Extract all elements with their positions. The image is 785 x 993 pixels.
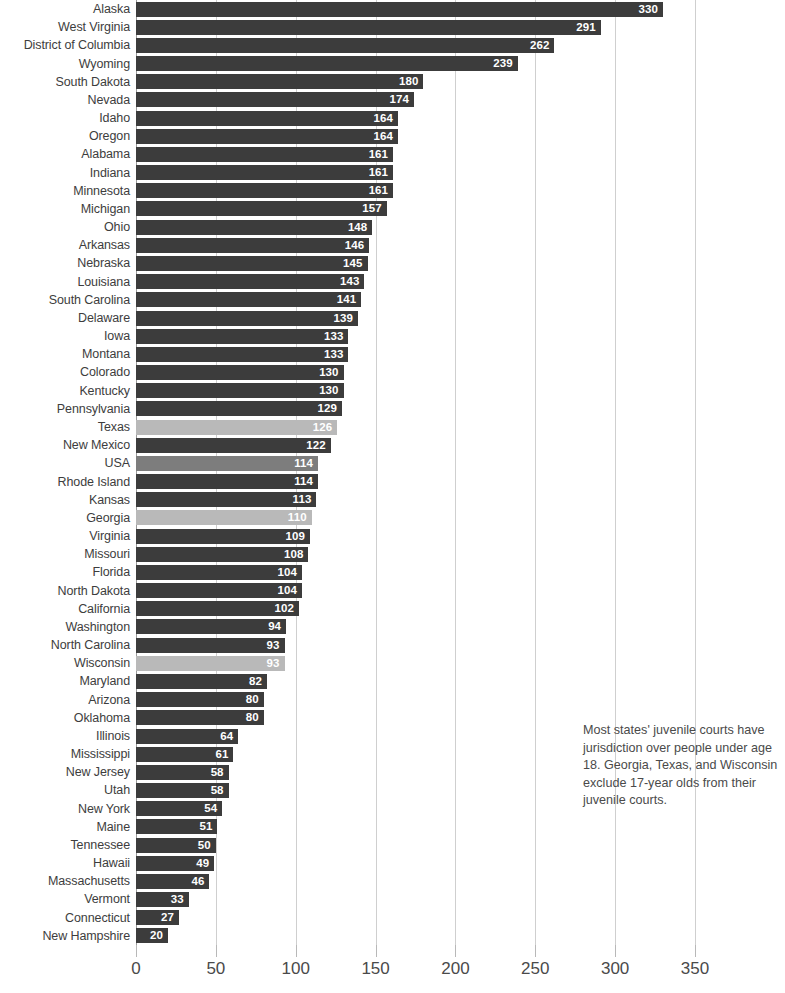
category-label: Tennessee <box>0 836 130 854</box>
bar[interactable]: 148 <box>136 220 372 235</box>
bar-container: 262 <box>136 38 554 53</box>
bar[interactable]: 164 <box>136 129 398 144</box>
bar[interactable]: 110 <box>136 510 312 525</box>
bar[interactable]: 49 <box>136 856 214 871</box>
category-label: Idaho <box>0 109 130 127</box>
bar-value-label: 174 <box>389 92 414 107</box>
bar[interactable]: 139 <box>136 311 358 326</box>
bar[interactable]: 94 <box>136 619 286 634</box>
category-label: Connecticut <box>0 909 130 927</box>
bar[interactable]: 133 <box>136 347 348 362</box>
bar-value-label: 61 <box>215 747 233 762</box>
category-label: Maryland <box>0 672 130 690</box>
bar[interactable]: 239 <box>136 56 518 71</box>
bar[interactable]: 161 <box>136 147 393 162</box>
bar-container: 161 <box>136 183 393 198</box>
bar[interactable]: 80 <box>136 692 264 707</box>
bar[interactable]: 104 <box>136 583 302 598</box>
category-label: Arizona <box>0 691 130 709</box>
bar-container: 164 <box>136 129 398 144</box>
bar[interactable]: 133 <box>136 329 348 344</box>
bar[interactable]: 130 <box>136 383 344 398</box>
bar[interactable]: 58 <box>136 783 229 798</box>
x-tick-mark <box>376 945 377 957</box>
bar-container: 104 <box>136 583 302 598</box>
bar[interactable]: 50 <box>136 838 216 853</box>
bar-value-label: 126 <box>313 420 338 435</box>
bar[interactable]: 27 <box>136 910 179 925</box>
bar[interactable]: 108 <box>136 547 308 562</box>
bar[interactable]: 291 <box>136 20 601 35</box>
bar-row: Wyoming239 <box>0 55 785 73</box>
category-label: Vermont <box>0 890 130 908</box>
x-tick-label: 100 <box>282 959 310 979</box>
bar[interactable]: 46 <box>136 874 209 889</box>
bar[interactable]: 143 <box>136 274 364 289</box>
bar[interactable]: 126 <box>136 420 337 435</box>
bar-value-label: 146 <box>345 238 370 253</box>
bar-row: Iowa133 <box>0 327 785 345</box>
bar-row: Montana133 <box>0 345 785 363</box>
bar-value-label: 133 <box>324 347 349 362</box>
bar-row: Massachusetts46 <box>0 872 785 890</box>
bar[interactable]: 161 <box>136 183 393 198</box>
category-label: Nebraska <box>0 254 130 272</box>
bar[interactable]: 104 <box>136 565 302 580</box>
bar[interactable]: 51 <box>136 819 217 834</box>
bar[interactable]: 114 <box>136 456 318 471</box>
category-label: Virginia <box>0 527 130 545</box>
bar-value-label: 239 <box>493 56 518 71</box>
bar[interactable]: 61 <box>136 747 233 762</box>
bar[interactable]: 141 <box>136 292 361 307</box>
bar[interactable]: 164 <box>136 111 398 126</box>
bar-container: 20 <box>136 928 168 943</box>
bar[interactable]: 180 <box>136 74 423 89</box>
bar-row: Tennessee50 <box>0 836 785 854</box>
x-tick-label: 50 <box>206 959 225 979</box>
bar[interactable]: 80 <box>136 710 264 725</box>
bar-row: Vermont33 <box>0 890 785 908</box>
bar-container: 133 <box>136 329 348 344</box>
bar[interactable]: 64 <box>136 729 238 744</box>
bar[interactable]: 130 <box>136 365 344 380</box>
bar[interactable]: 93 <box>136 656 285 671</box>
bar[interactable]: 146 <box>136 238 369 253</box>
bar[interactable]: 174 <box>136 92 414 107</box>
bar[interactable]: 82 <box>136 674 267 689</box>
bar[interactable]: 122 <box>136 438 331 453</box>
bar-value-label: 50 <box>198 838 216 853</box>
bar-container: 54 <box>136 801 222 816</box>
category-label: Colorado <box>0 363 130 381</box>
bar-row: Minnesota161 <box>0 182 785 200</box>
bar[interactable]: 113 <box>136 492 316 507</box>
bar-row: Wisconsin93 <box>0 654 785 672</box>
category-label: New York <box>0 800 130 818</box>
bar[interactable]: 145 <box>136 256 368 271</box>
bar[interactable]: 161 <box>136 165 393 180</box>
bar-row: Connecticut27 <box>0 909 785 927</box>
bar[interactable]: 262 <box>136 38 554 53</box>
bar-value-label: 145 <box>343 256 368 271</box>
bar[interactable]: 20 <box>136 928 168 943</box>
bar[interactable]: 93 <box>136 638 285 653</box>
bar[interactable]: 54 <box>136 801 222 816</box>
bar[interactable]: 330 <box>136 2 663 17</box>
category-label: West Virginia <box>0 18 130 36</box>
category-label: Ohio <box>0 218 130 236</box>
bar[interactable]: 33 <box>136 892 189 907</box>
category-label: Kansas <box>0 491 130 509</box>
bar-row: District of Columbia262 <box>0 36 785 54</box>
bar[interactable]: 102 <box>136 601 299 616</box>
category-label: Massachusetts <box>0 872 130 890</box>
bar[interactable]: 114 <box>136 474 318 489</box>
bar-value-label: 27 <box>161 910 179 925</box>
bar[interactable]: 157 <box>136 201 387 216</box>
bar-value-label: 54 <box>204 801 222 816</box>
bar[interactable]: 129 <box>136 401 342 416</box>
bar-value-label: 108 <box>284 547 309 562</box>
bar-value-label: 122 <box>306 438 331 453</box>
bar-value-label: 80 <box>246 692 264 707</box>
bar[interactable]: 109 <box>136 529 310 544</box>
bar[interactable]: 58 <box>136 765 229 780</box>
bar-row: Texas126 <box>0 418 785 436</box>
